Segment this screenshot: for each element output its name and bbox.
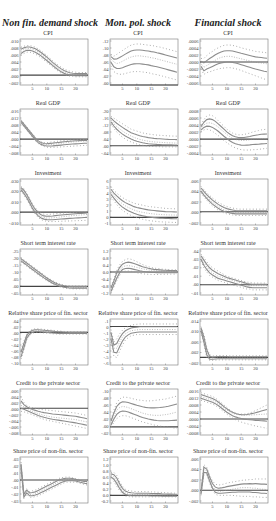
irf-panel: Short term interest rate1.20.80.40.0-0.4… bbox=[92, 240, 184, 310]
svg-text:-.05: -.05 bbox=[11, 291, 19, 296]
irf-plot: .03.02.01.00-.01-.02-.035101520 bbox=[2, 455, 90, 509]
svg-text:.012: .012 bbox=[10, 116, 19, 121]
svg-text:.000: .000 bbox=[190, 210, 199, 215]
svg-text:10: 10 bbox=[225, 436, 230, 441]
irf-panel: Share price of non-fin. sector.006.004.0… bbox=[182, 448, 274, 518]
svg-text:5: 5 bbox=[211, 366, 214, 371]
svg-text:15: 15 bbox=[149, 366, 154, 371]
svg-text:15: 15 bbox=[149, 504, 154, 509]
svg-text:.10: .10 bbox=[103, 46, 109, 51]
svg-text:10: 10 bbox=[135, 86, 140, 91]
svg-text:20: 20 bbox=[163, 156, 168, 161]
svg-text:4: 4 bbox=[106, 191, 109, 196]
svg-text:.15: .15 bbox=[13, 263, 19, 268]
irf-panel: Investment.006.004.002.000-.0025101520 bbox=[182, 170, 274, 240]
panel-title: CPI bbox=[182, 30, 274, 36]
irf-panel: Short term interest rate.25.20.15.10.05.… bbox=[2, 240, 94, 310]
svg-text:.016: .016 bbox=[10, 109, 19, 114]
svg-text:.010: .010 bbox=[10, 200, 19, 205]
svg-text:.008: .008 bbox=[10, 46, 19, 51]
svg-text:.04: .04 bbox=[13, 319, 19, 324]
irf-plot: .04.02.00-.02-.04-.06-.08-.105101520 bbox=[2, 317, 90, 371]
svg-text:-.0006: -.0006 bbox=[187, 81, 200, 86]
panel-title: Relative share price of fin. sector bbox=[182, 310, 274, 316]
svg-text:.006: .006 bbox=[10, 389, 19, 394]
svg-text:.000: .000 bbox=[10, 74, 19, 79]
svg-text:-.002: -.002 bbox=[9, 413, 19, 418]
svg-text:.00: .00 bbox=[13, 331, 19, 336]
irf-plot: .014.010.006.002-.0025101520 bbox=[182, 317, 270, 371]
svg-text:-.08: -.08 bbox=[11, 355, 19, 360]
svg-text:.20: .20 bbox=[13, 256, 19, 261]
svg-text:.03: .03 bbox=[193, 257, 199, 262]
svg-text:15: 15 bbox=[239, 86, 244, 91]
svg-text:5: 5 bbox=[31, 366, 34, 371]
svg-text:10: 10 bbox=[45, 86, 50, 91]
irf-panel: Real GDP.016.012.008.004.000-.004-.00851… bbox=[2, 100, 94, 170]
svg-text:20: 20 bbox=[253, 504, 258, 509]
panel-title: Investment bbox=[182, 170, 274, 176]
svg-text:-.010: -.010 bbox=[9, 221, 19, 226]
svg-text:15: 15 bbox=[59, 226, 64, 231]
svg-text:.0006: .0006 bbox=[188, 116, 199, 121]
svg-text:.00: .00 bbox=[103, 144, 109, 149]
irf-panel: Relative share price of fin. sector.04.0… bbox=[2, 310, 94, 380]
irf-plot: .12.10.08.06.04.02.005101520 bbox=[92, 37, 180, 91]
irf-panel: Credit to the private sector.0016.0012.0… bbox=[182, 380, 274, 450]
svg-text:-.002: -.002 bbox=[9, 81, 19, 86]
svg-text:20: 20 bbox=[163, 366, 168, 371]
svg-text:.12: .12 bbox=[103, 39, 109, 44]
svg-text:0.6: 0.6 bbox=[103, 475, 109, 480]
svg-text:.0004: .0004 bbox=[188, 123, 199, 128]
svg-text:5: 5 bbox=[121, 296, 124, 301]
svg-text:.01: .01 bbox=[193, 274, 199, 279]
svg-text:.000: .000 bbox=[10, 137, 19, 142]
svg-text:.0008: .0008 bbox=[188, 403, 199, 408]
svg-text:-.02: -.02 bbox=[101, 431, 109, 436]
svg-text:20: 20 bbox=[163, 504, 168, 509]
irf-plot: .0008.0006.0004.0002.0000-.0002-.0004510… bbox=[182, 107, 270, 161]
svg-text:5: 5 bbox=[211, 156, 214, 161]
svg-text:-1.2: -1.2 bbox=[101, 291, 109, 296]
svg-text:.05: .05 bbox=[13, 277, 19, 282]
svg-text:.06: .06 bbox=[103, 403, 109, 408]
svg-text:.0008: .0008 bbox=[188, 109, 199, 114]
svg-text:-.1: -.1 bbox=[104, 331, 110, 336]
svg-text:.25: .25 bbox=[13, 249, 19, 254]
column-header: Financial shock bbox=[182, 17, 274, 28]
svg-text:.08: .08 bbox=[103, 130, 109, 135]
svg-text:-.0002: -.0002 bbox=[187, 144, 200, 149]
panel-title: Investment bbox=[92, 170, 184, 176]
svg-text:-.3: -.3 bbox=[104, 343, 110, 348]
svg-text:1: 1 bbox=[106, 209, 109, 214]
svg-text:15: 15 bbox=[149, 86, 154, 91]
svg-text:.02: .02 bbox=[193, 265, 199, 270]
irf-panel: CPI.12.10.08.06.04.02.005101520 bbox=[92, 30, 184, 100]
svg-text:.12: .12 bbox=[103, 123, 109, 128]
svg-text:.02: .02 bbox=[13, 464, 19, 469]
svg-text:.0000: .0000 bbox=[188, 60, 199, 65]
svg-text:-.0004: -.0004 bbox=[187, 151, 200, 156]
svg-text:-.01: -.01 bbox=[11, 485, 19, 490]
svg-text:.0004: .0004 bbox=[188, 46, 199, 51]
svg-text:15: 15 bbox=[239, 226, 244, 231]
svg-text:20: 20 bbox=[253, 86, 258, 91]
svg-text:15: 15 bbox=[59, 86, 64, 91]
panel-title: Credit to the private sector bbox=[182, 380, 274, 386]
svg-text:.20: .20 bbox=[103, 109, 109, 114]
svg-text:-0.8: -0.8 bbox=[101, 284, 109, 289]
svg-text:5: 5 bbox=[211, 86, 214, 91]
svg-text:20: 20 bbox=[253, 366, 258, 371]
svg-text:-.06: -.06 bbox=[11, 349, 19, 354]
svg-text:20: 20 bbox=[73, 226, 78, 231]
irf-plot: .10-.1-.2-.3-.4-.5-.65101520 bbox=[92, 317, 180, 371]
svg-text:0: 0 bbox=[106, 215, 109, 220]
panel-title: Credit to the private sector bbox=[92, 380, 184, 386]
svg-text:.00: .00 bbox=[103, 424, 109, 429]
panel-title: Short term interest rate bbox=[2, 240, 94, 246]
svg-text:-.04: -.04 bbox=[101, 151, 109, 156]
svg-text:15: 15 bbox=[149, 436, 154, 441]
svg-text:-.008: -.008 bbox=[9, 431, 19, 436]
svg-text:20: 20 bbox=[253, 296, 258, 301]
svg-text:5: 5 bbox=[31, 86, 34, 91]
